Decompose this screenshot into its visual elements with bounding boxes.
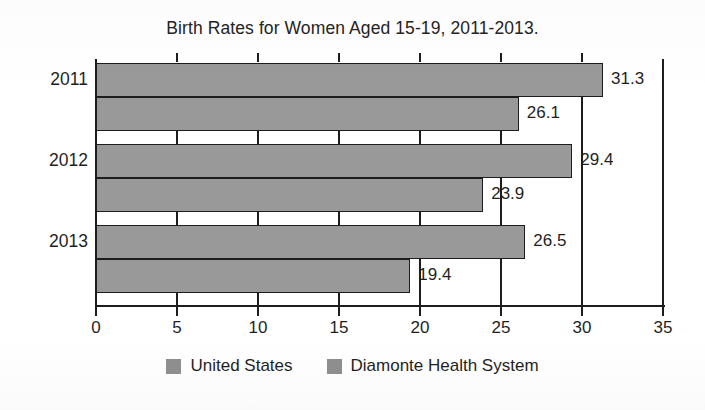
value-label-2011-diamonte-health-system: 26.1 bbox=[527, 103, 560, 123]
y-axis-label-2011: 2011 bbox=[2, 69, 88, 90]
bar-2011-united-states bbox=[96, 63, 603, 97]
x-tick-label-5: 5 bbox=[155, 318, 199, 338]
legend-swatch-icon bbox=[166, 359, 181, 374]
chart-title: Birth Rates for Women Aged 15-19, 2011-2… bbox=[0, 18, 705, 39]
x-tick-10 bbox=[257, 307, 259, 316]
x-tick-label-25: 25 bbox=[479, 318, 523, 338]
legend-swatch-icon bbox=[327, 359, 342, 374]
x-tick-30 bbox=[581, 307, 583, 316]
x-tick-top-15 bbox=[338, 53, 340, 62]
legend-item-united-states[interactable]: United States bbox=[166, 356, 292, 376]
gridline-30 bbox=[581, 63, 583, 306]
x-tick-5 bbox=[176, 307, 178, 316]
value-label-2013-diamonte-health-system: 19.4 bbox=[418, 265, 451, 285]
x-tick-label-0: 0 bbox=[74, 318, 118, 338]
legend-label: United States bbox=[190, 356, 292, 376]
legend-label: Diamonte Health System bbox=[351, 356, 539, 376]
y-axis-label-2013: 2013 bbox=[2, 231, 88, 252]
x-tick-top-25 bbox=[500, 53, 502, 62]
x-tick-label-20: 20 bbox=[398, 318, 442, 338]
value-label-2013-united-states: 26.5 bbox=[533, 231, 566, 251]
value-label-2012-diamonte-health-system: 23.9 bbox=[491, 184, 524, 204]
x-tick-top-30 bbox=[581, 53, 583, 62]
bar-2012-diamonte-health-system bbox=[96, 178, 483, 212]
plot-area bbox=[96, 63, 663, 306]
x-tick-top-20 bbox=[419, 53, 421, 62]
bar-2013-diamonte-health-system bbox=[96, 259, 410, 293]
x-tick-label-30: 30 bbox=[560, 318, 604, 338]
chart-legend: United StatesDiamonte Health System bbox=[0, 356, 705, 376]
legend-item-diamonte-health-system[interactable]: Diamonte Health System bbox=[327, 356, 539, 376]
x-tick-35 bbox=[662, 307, 664, 316]
x-tick-top-5 bbox=[176, 53, 178, 62]
y-axis-label-2012: 2012 bbox=[2, 150, 88, 171]
x-tick-label-35: 35 bbox=[641, 318, 685, 338]
x-tick-top-10 bbox=[257, 53, 259, 62]
y-axis-category-labels: 201120122013 bbox=[0, 63, 88, 306]
x-tick-20 bbox=[419, 307, 421, 316]
value-label-2011-united-states: 31.3 bbox=[611, 69, 644, 89]
x-tick-0 bbox=[95, 307, 97, 316]
x-tick-label-15: 15 bbox=[317, 318, 361, 338]
bar-2012-united-states bbox=[96, 144, 572, 178]
x-tick-label-10: 10 bbox=[236, 318, 280, 338]
x-tick-25 bbox=[500, 307, 502, 316]
bar-chart-figure: Birth Rates for Women Aged 15-19, 2011-2… bbox=[0, 0, 705, 410]
x-tick-15 bbox=[338, 307, 340, 316]
value-label-2012-united-states: 29.4 bbox=[580, 150, 613, 170]
bar-2011-diamonte-health-system bbox=[96, 97, 519, 131]
bar-2013-united-states bbox=[96, 225, 525, 259]
